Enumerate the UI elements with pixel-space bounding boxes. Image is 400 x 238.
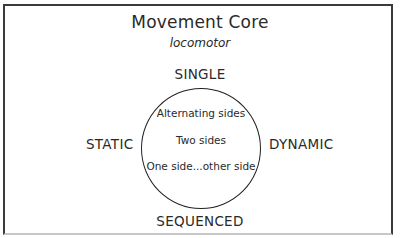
axis-label-left: STATIC: [86, 138, 133, 152]
circle-item-one-side: One side...other side: [141, 161, 261, 172]
diagram-subtitle: locomotor: [0, 37, 400, 49]
axis-label-right: DYNAMIC: [269, 138, 333, 152]
circle-item-alternating: Alternating sides: [141, 108, 261, 119]
diagram-title: Movement Core: [0, 14, 400, 31]
circle-item-two-sides: Two sides: [141, 135, 261, 146]
axis-label-bottom: SEQUENCED: [0, 215, 400, 229]
axis-label-top: SINGLE: [0, 68, 400, 82]
